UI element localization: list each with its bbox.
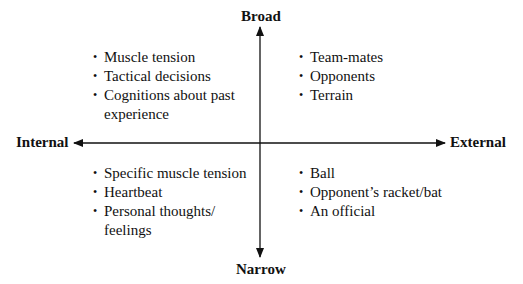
list-item: •Terrain	[299, 86, 459, 105]
bullet-icon: •	[93, 67, 97, 86]
bullet-icon: •	[93, 202, 97, 221]
bullet-icon: •	[299, 86, 303, 105]
bullet-icon: •	[299, 48, 303, 67]
list-item: •Opponents	[299, 67, 459, 86]
bullet-icon: •	[93, 183, 97, 202]
list-item: •Tactical decisions	[93, 67, 253, 86]
axis-label-external: External	[450, 133, 506, 151]
list-item: •An official	[299, 202, 489, 221]
bullet-icon: •	[299, 202, 303, 221]
quadrant-broad-external: •Team-mates •Opponents •Terrain	[299, 48, 459, 105]
list-item: •Team-mates	[299, 48, 459, 67]
axis-label-internal: Internal	[16, 133, 69, 151]
bullet-icon: •	[299, 67, 303, 86]
bullet-icon: •	[299, 164, 303, 183]
quadrant-narrow-internal: •Specific muscle tension •Heartbeat •Per…	[93, 164, 253, 240]
list-item: •Heartbeat	[93, 183, 253, 202]
list-item: •Personal thoughts/ feelings	[93, 202, 253, 240]
bullet-icon: •	[93, 48, 97, 67]
list-item: •Muscle tension	[93, 48, 253, 67]
quadrant-narrow-external: •Ball •Opponent’s racket/bat •An officia…	[299, 164, 489, 221]
list-item: •Cognitions about past experience	[93, 86, 253, 124]
list-item: •Opponent’s racket/bat	[299, 183, 489, 202]
bullet-icon: •	[93, 164, 97, 183]
axes	[0, 0, 523, 284]
quadrant-broad-internal: •Muscle tension •Tactical decisions •Cog…	[93, 48, 253, 124]
bullet-icon: •	[93, 86, 97, 105]
axis-label-broad: Broad	[241, 7, 281, 25]
bullet-icon: •	[299, 183, 303, 202]
list-item: •Specific muscle tension	[93, 164, 253, 183]
axis-label-narrow: Narrow	[236, 260, 286, 278]
list-item: •Ball	[299, 164, 489, 183]
